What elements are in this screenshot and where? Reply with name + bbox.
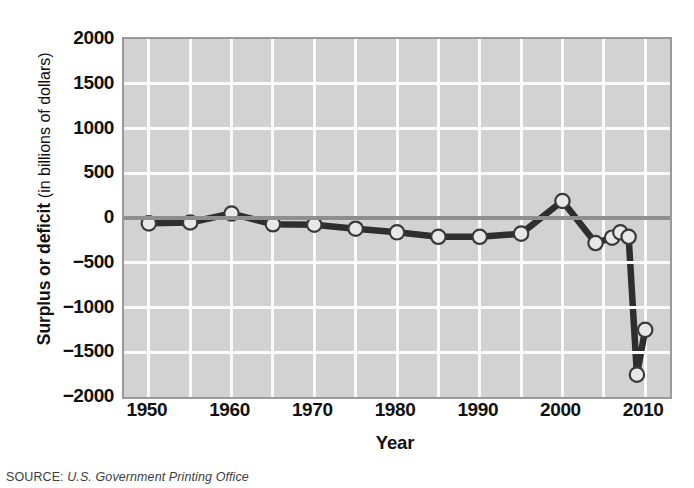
data-point-marker [431, 230, 445, 244]
source-label: SOURCE: [6, 470, 64, 484]
y-tick-label: 1000 [14, 117, 114, 136]
gridline-horizontal [124, 306, 670, 309]
data-point-marker [514, 226, 528, 240]
plot-inner [124, 39, 670, 397]
gridline-horizontal [124, 127, 670, 130]
data-point-marker [348, 222, 362, 236]
source-note: SOURCE: U.S. Government Printing Office [6, 470, 249, 484]
x-axis-tick-labels: 1950196019701980199020002010 [0, 400, 694, 430]
y-tick-label: −500 [14, 251, 114, 270]
figure-deficit-chart: Surplus or deficit (in billions of dolla… [0, 0, 694, 488]
y-tick-label: −1000 [14, 296, 114, 315]
data-point-marker [588, 236, 602, 250]
data-point-marker [621, 230, 635, 244]
x-tick-label: 2010 [583, 400, 694, 419]
y-tick-label: 0 [14, 207, 114, 226]
gridline-horizontal [124, 172, 670, 175]
gridline-horizontal [124, 261, 670, 264]
source-value: U.S. Government Printing Office [67, 470, 249, 484]
data-point-marker [630, 367, 644, 381]
plot-area [122, 37, 672, 399]
gridline-horizontal [124, 351, 670, 354]
data-point-marker [555, 194, 569, 208]
x-axis-title: Year [122, 432, 668, 454]
data-point-marker [638, 323, 652, 337]
gridline-horizontal [124, 82, 670, 85]
y-tick-label: 2000 [14, 28, 114, 47]
zero-reference-line [124, 216, 670, 220]
y-tick-label: −1500 [14, 341, 114, 360]
data-point-marker [390, 225, 404, 239]
data-point-marker [473, 230, 487, 244]
y-tick-label: 1500 [14, 72, 114, 91]
y-tick-label: 500 [14, 162, 114, 181]
